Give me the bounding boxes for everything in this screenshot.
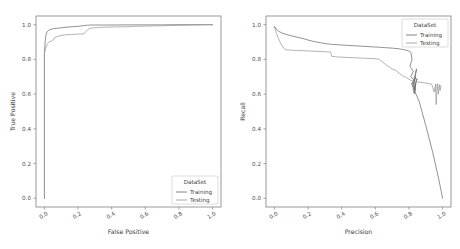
legend-title: DataSet <box>184 179 207 185</box>
x-tick-label: 0.0 <box>38 210 49 220</box>
y-tick-label: 0.4 <box>22 126 31 132</box>
y-tick-label: 0.2 <box>22 161 31 167</box>
y-tick-label: 0.6 <box>252 91 261 97</box>
x-tick-label: 0.4 <box>105 210 116 220</box>
x-tick-label: 0.2 <box>302 210 313 220</box>
x-tick-label: 0.2 <box>72 210 83 220</box>
legend: DataSetTrainingTesting <box>402 19 448 47</box>
legend-title: DataSet <box>414 22 437 28</box>
series-line-training <box>274 26 442 198</box>
series-line-training <box>44 25 212 199</box>
x-tick-label: 1.0 <box>436 210 447 220</box>
precision-recall-svg: 0.00.20.40.60.81.00.00.20.40.60.81.0Prec… <box>230 0 460 249</box>
x-tick-label: 0.4 <box>335 210 346 220</box>
x-tick-label: 1.0 <box>206 210 217 220</box>
y-axis-ticks: 0.00.20.40.60.81.0 <box>252 22 266 202</box>
y-tick-label: 1.0 <box>252 22 261 28</box>
y-axis-ticks: 0.00.20.40.60.81.0 <box>22 22 36 202</box>
x-tick-label: 0.8 <box>173 210 184 220</box>
x-axis-ticks: 0.00.20.40.60.81.0 <box>38 207 217 220</box>
x-axis-ticks: 0.00.20.40.60.81.0 <box>268 207 447 220</box>
y-tick-label: 0.0 <box>252 195 261 201</box>
y-axis-title: True Positive <box>9 92 16 132</box>
x-tick-label: 0.6 <box>139 210 150 220</box>
legend: DataSetTrainingTesting <box>172 176 218 204</box>
x-axis-title: Precision <box>345 228 373 235</box>
y-tick-label: 0.0 <box>22 195 31 201</box>
y-axis-title: Recall <box>239 102 246 121</box>
roc-curve-panel: 0.00.20.40.60.81.00.00.20.40.60.81.0Fals… <box>0 0 230 249</box>
x-tick-label: 0.8 <box>403 210 414 220</box>
y-tick-label: 0.6 <box>22 91 31 97</box>
precision-recall-panel: 0.00.20.40.60.81.00.00.20.40.60.81.0Prec… <box>230 0 460 249</box>
y-tick-label: 0.2 <box>252 161 261 167</box>
x-axis-title: False Positive <box>108 228 150 235</box>
x-tick-label: 0.0 <box>268 210 279 220</box>
y-tick-label: 0.4 <box>252 126 261 132</box>
legend-label-testing: Testing <box>419 40 440 47</box>
series-line-testing <box>44 25 212 199</box>
legend-label-training: Training <box>419 32 443 39</box>
y-tick-label: 0.8 <box>252 56 261 62</box>
figure-root: 0.00.20.40.60.81.00.00.20.40.60.81.0Fals… <box>0 0 460 249</box>
legend-label-testing: Testing <box>189 197 210 204</box>
y-tick-label: 1.0 <box>22 22 31 28</box>
x-tick-label: 0.6 <box>369 210 380 220</box>
legend-label-training: Training <box>189 189 213 196</box>
roc-curve-svg: 0.00.20.40.60.81.00.00.20.40.60.81.0Fals… <box>0 0 230 249</box>
y-tick-label: 0.8 <box>22 56 31 62</box>
